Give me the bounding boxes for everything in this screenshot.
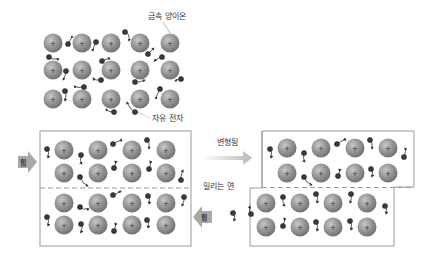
free-electron xyxy=(301,174,306,179)
free-electron xyxy=(382,203,387,208)
ion-plus-sign: + xyxy=(95,147,101,155)
free-electron xyxy=(335,173,340,178)
free-electron xyxy=(44,146,49,151)
metal-ion-leader-line xyxy=(163,22,170,33)
ion-plus-sign: + xyxy=(167,40,173,48)
deformed-label: 변형됨 xyxy=(217,137,238,147)
ion-plus-sign: + xyxy=(95,170,101,178)
ion-plus-sign: + xyxy=(352,170,358,178)
free-electron xyxy=(65,41,70,46)
force-arrow-right: 힘 xyxy=(193,206,212,228)
ion-plus-sign: + xyxy=(163,147,169,155)
free-electron-leader-line xyxy=(138,112,150,118)
ion-plus-sign: + xyxy=(137,40,143,48)
ion-plus-sign: + xyxy=(364,224,370,232)
ion-plus-sign: + xyxy=(61,222,67,230)
ion-plus-sign: + xyxy=(284,145,290,153)
ion-plus-sign: + xyxy=(50,40,56,48)
ion-plus-sign: + xyxy=(318,170,324,178)
free-electron xyxy=(111,109,116,114)
ion-plus-sign: + xyxy=(108,67,114,75)
free-electron xyxy=(144,217,149,222)
free-electron xyxy=(348,191,353,196)
ion-plus-sign: + xyxy=(364,200,370,208)
force-arrow-left: 힘 xyxy=(18,151,37,173)
free-electron xyxy=(63,68,68,73)
free-electron xyxy=(62,88,67,93)
free-electron xyxy=(99,58,104,63)
ion-plus-sign: + xyxy=(330,200,336,208)
ion-plus-sign: + xyxy=(167,67,173,75)
ion-plus-sign: + xyxy=(263,224,269,232)
free-electron xyxy=(313,219,318,224)
free-electron xyxy=(132,109,137,114)
free-electron xyxy=(334,141,339,146)
free-electron xyxy=(81,84,86,89)
free-electron xyxy=(46,54,51,59)
ion-plus-sign: + xyxy=(108,96,114,104)
free-electron xyxy=(367,137,372,142)
free-electron xyxy=(301,150,306,155)
ion-plus-sign: + xyxy=(284,170,290,178)
free-electron xyxy=(122,29,127,34)
ion-plus-sign: + xyxy=(61,147,67,155)
ion-plus-sign: + xyxy=(95,200,101,208)
free-electron xyxy=(248,211,253,216)
free-electron xyxy=(401,154,406,159)
ion-plus-sign: + xyxy=(385,170,391,178)
force-label-left: 힘 xyxy=(20,158,26,167)
free-electron xyxy=(78,221,83,226)
free-electron xyxy=(230,210,235,215)
ion-plus-sign: + xyxy=(330,224,336,232)
ion-plus-sign: + xyxy=(385,145,391,153)
free-electron xyxy=(144,137,149,142)
free-electron xyxy=(111,228,116,233)
metallic-bond-diagram: +++++++++++++++ 금속 양이온 자유 전자 +++++++++++… xyxy=(0,0,432,259)
free-electron xyxy=(132,79,137,84)
free-electron xyxy=(98,77,103,82)
free-electron xyxy=(146,166,151,171)
ion-plus-sign: + xyxy=(50,67,56,75)
ion-plus-sign: + xyxy=(263,200,269,208)
free-electron xyxy=(368,166,373,171)
ion-plus-sign: + xyxy=(50,96,56,104)
ion-plus-sign: + xyxy=(79,67,85,75)
free-electron xyxy=(44,214,49,219)
free-electron xyxy=(110,192,115,197)
ion-plus-sign: + xyxy=(137,96,143,104)
free-electron xyxy=(181,194,186,199)
free-electron xyxy=(159,54,164,59)
free-electron xyxy=(77,204,82,209)
free-electron xyxy=(93,39,98,44)
free-electron xyxy=(178,177,183,182)
free-electron xyxy=(280,194,285,199)
metal-ion-label: 금속 양이온 xyxy=(148,11,186,21)
free-electron xyxy=(280,223,285,228)
ion-plus-sign: + xyxy=(352,145,358,153)
ion-plus-sign: + xyxy=(79,40,85,48)
free-electron xyxy=(145,193,150,198)
metal-lattice: +++++++++++++++ xyxy=(44,29,184,114)
free-electron xyxy=(77,174,82,179)
ion-plus-sign: + xyxy=(129,200,135,208)
free-electron-label: 자유 전자 xyxy=(152,113,184,123)
ion-plus-sign: + xyxy=(61,170,67,178)
ion-plus-sign: + xyxy=(167,96,173,104)
ion-plus-sign: + xyxy=(61,200,67,208)
force-label-right: 힘 xyxy=(201,213,207,222)
free-electron xyxy=(111,165,116,170)
ion-plus-sign: + xyxy=(95,222,101,230)
free-electron xyxy=(313,191,318,196)
ion-plus-sign: + xyxy=(129,170,135,178)
ion-plus-sign: + xyxy=(129,147,135,155)
slip-plane-label: 밀리는 면 xyxy=(203,181,234,191)
free-electron xyxy=(267,146,272,151)
free-electron xyxy=(178,76,183,81)
ion-plus-sign: + xyxy=(297,200,303,208)
free-electron xyxy=(347,218,352,223)
free-electron xyxy=(78,152,83,157)
free-electron xyxy=(110,141,115,146)
ion-plus-sign: + xyxy=(318,145,324,153)
ion-plus-sign: + xyxy=(163,222,169,230)
ion-plus-sign: + xyxy=(79,96,85,104)
